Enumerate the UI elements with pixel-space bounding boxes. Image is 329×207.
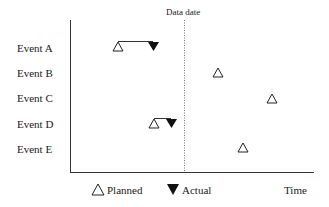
- event-label-d: Event D: [17, 119, 53, 130]
- planned-triangle-icon: [113, 42, 123, 51]
- event-label-a: Event A: [17, 43, 53, 54]
- legend-planned-label: Planned: [107, 185, 142, 196]
- data-date-label: Data date: [166, 8, 200, 17]
- event-label-e: Event E: [17, 144, 52, 155]
- event-d-markers: [149, 119, 177, 129]
- legend-actual-label: Actual: [182, 185, 211, 196]
- event-a-markers: [113, 42, 159, 52]
- actual-triangle-icon: [166, 119, 177, 128]
- planned-triangle-icon: [213, 68, 223, 77]
- planned-triangle-icon: [238, 143, 248, 152]
- planned-triangle-icon: [149, 119, 159, 128]
- planned-triangle-icon: [267, 94, 277, 103]
- legend-actual-icon: [167, 184, 179, 195]
- actual-triangle-icon: [148, 42, 159, 51]
- legend-planned-icon: [92, 184, 104, 195]
- x-axis-label: Time: [284, 185, 307, 196]
- event-label-c: Event C: [17, 93, 53, 104]
- event-label-b: Event B: [17, 68, 53, 79]
